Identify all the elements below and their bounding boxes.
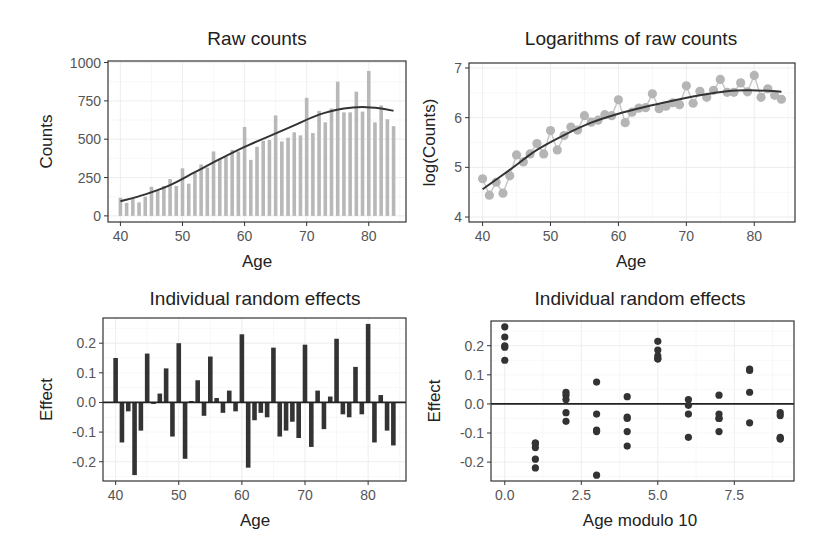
bar [230,150,234,216]
bar [202,402,207,415]
bar [372,402,377,442]
x-tick-label: 5.0 [648,487,668,503]
x-axis-label: Age [242,252,272,271]
bar [240,334,245,402]
data-point [715,428,722,435]
bar [309,402,314,446]
bar [143,197,147,216]
data-point [654,355,661,362]
data-point [532,464,539,471]
bar [243,127,247,216]
bar [221,402,226,412]
y-tick-label: 250 [78,170,102,186]
y-axis-label: Counts [37,115,56,169]
y-tick-label: 0.1 [77,365,97,381]
bar [139,402,144,430]
x-axis-label: Age [616,252,646,271]
bar [336,82,340,216]
y-tick-label: 0.1 [465,367,485,383]
x-tick-label: 60 [611,228,627,244]
bar [271,348,276,403]
data-point [689,99,698,108]
data-point [580,111,589,120]
bar [162,186,166,216]
data-point [682,81,691,90]
data-point [756,93,765,102]
y-tick-label: 6 [454,110,462,126]
bar [353,367,358,403]
x-tick-label: 7.5 [725,487,745,503]
bar [227,391,232,403]
panel-random-effects-by-age: Individual random effects 4050607080-0.2… [37,288,406,530]
data-point [777,435,784,442]
data-point [485,191,494,200]
bar [315,391,320,403]
x-tick-label: 80 [360,487,376,503]
points-and-lines [478,71,786,200]
data-point [685,410,692,417]
data-point [648,89,657,98]
bar [255,147,259,216]
bar [290,402,295,421]
data-point [562,396,569,403]
smooth-curve [483,90,782,189]
x-tick-label: 70 [679,228,695,244]
y-tick-label: 5 [454,159,462,175]
data-point [685,434,692,441]
bar [303,345,308,403]
bar [379,105,383,215]
x-tick-label: 0.0 [495,487,515,503]
bar [120,402,125,442]
bar [311,133,315,216]
data-point [654,338,661,345]
panel-title: Raw counts [207,28,306,49]
data-point [593,472,600,479]
bar [233,402,238,411]
y-tick-label: 500 [78,131,102,147]
panel-log-counts: Logarithms of raw counts 40506070804567 … [420,28,795,271]
x-tick-label: 60 [237,228,253,244]
data-point [512,150,521,159]
data-point [593,410,600,417]
y-tick-label: 0.0 [465,396,485,412]
x-tick-label: 70 [299,228,315,244]
y-tick-label: 0.2 [77,335,97,351]
y-axis-label: Effect [37,378,56,421]
y-tick-label: 7 [454,60,462,76]
y-tick-label: -0.1 [72,424,96,440]
data-point [562,409,569,416]
bar [113,358,118,402]
data-point [501,344,508,351]
x-tick-label: 50 [543,228,559,244]
x-tick-label: 80 [361,228,377,244]
y-tick-label: 1000 [70,55,101,71]
bar [145,354,150,403]
bar [181,168,185,216]
data-point [746,367,753,374]
bar [299,135,303,216]
y-tick-label: 0 [93,208,101,224]
data-point [501,323,508,330]
data-point [736,78,745,87]
gridlines [469,63,795,222]
bar [366,324,371,403]
bar [274,115,278,215]
bar [126,402,131,411]
points [491,323,794,479]
y-tick-label: 4 [454,209,462,225]
bar [360,402,365,414]
data-point [478,174,487,183]
x-tick-label: 50 [175,228,191,244]
x-axis-label: Age modulo 10 [583,511,697,530]
bar [385,402,390,430]
data-point [562,418,569,425]
bar [208,357,213,403]
bar [334,339,339,403]
bar [265,402,270,417]
bar [323,122,327,216]
bar [137,202,141,215]
bar [378,395,383,402]
panel-raw-counts: Raw counts 405060708002505007501000 Age … [37,28,406,271]
data-point [746,419,753,426]
bar [249,160,253,216]
